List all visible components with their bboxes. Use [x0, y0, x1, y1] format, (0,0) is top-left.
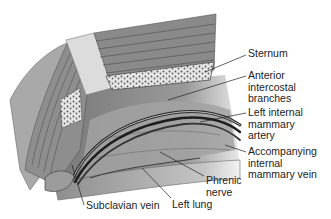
label-line: Left internal	[248, 107, 303, 119]
label-left-internal-mammary-artery: Left internal mammary artery	[248, 107, 303, 142]
label-line: artery	[248, 130, 303, 142]
label-line: Anterior	[248, 70, 296, 82]
label-line: branches	[248, 93, 296, 105]
label-sternum: Sternum	[248, 48, 288, 60]
label-line: mammary vein	[248, 169, 317, 181]
label-line: Phrenic	[206, 175, 242, 187]
label-line: Accompanying	[248, 146, 317, 158]
label-line: nerve	[206, 187, 242, 199]
label-phrenic-nerve: Phrenic nerve	[206, 175, 242, 198]
label-line: Sternum	[248, 48, 288, 60]
anatomical-figure: Sternum Anterior intercostal branches Le…	[0, 0, 331, 219]
label-anterior-intercostal-branches: Anterior intercostal branches	[248, 70, 296, 105]
label-line: Subclavian vein	[86, 200, 160, 212]
label-subclavian-vein: Subclavian vein	[86, 200, 160, 212]
label-accompanying-internal-mammary-vein: Accompanying internal mammary vein	[248, 146, 317, 181]
label-left-lung: Left lung	[172, 199, 212, 211]
label-line: Left lung	[172, 199, 212, 211]
